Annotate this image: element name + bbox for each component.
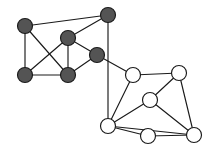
graph-node-w5[interactable] (141, 129, 156, 144)
graph-edge (25, 38, 68, 75)
graph-node-w6[interactable] (187, 128, 202, 143)
graph-node-d1[interactable] (18, 19, 33, 34)
graph-node-w4[interactable] (101, 119, 116, 134)
graph-edge (179, 73, 194, 135)
graph-node-d5[interactable] (18, 68, 33, 83)
graph-node-d6[interactable] (61, 68, 76, 83)
graph-edge (150, 100, 194, 135)
graph-node-d2[interactable] (101, 8, 116, 23)
graph-node-d4[interactable] (90, 48, 105, 63)
edge-layer (25, 15, 194, 136)
graph-node-w1[interactable] (126, 68, 141, 83)
graph-node-w3[interactable] (143, 93, 158, 108)
graph-node-d3[interactable] (61, 31, 76, 46)
graph-figure (0, 0, 218, 156)
graph-canvas (0, 0, 218, 156)
graph-node-w2[interactable] (172, 66, 187, 81)
graph-edge (25, 15, 108, 26)
